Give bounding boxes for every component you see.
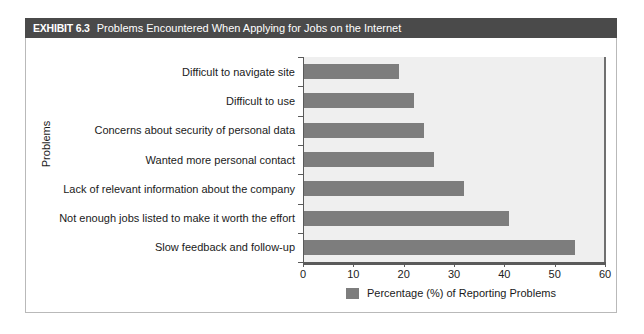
bar[interactable] [303, 123, 424, 138]
x-axis-tick-mark [404, 262, 405, 267]
plot-area [303, 57, 605, 262]
exhibit-header-bar: EXHIBIT 6.3 Problems Encountered When Ap… [25, 18, 617, 38]
x-axis-tick-mark [353, 262, 354, 267]
y-axis-title: Problems [40, 99, 52, 189]
bar[interactable] [303, 152, 434, 167]
x-axis-tick-mark [454, 262, 455, 267]
bar-row [303, 57, 605, 86]
bar-row [303, 203, 605, 232]
bar[interactable] [303, 93, 414, 108]
bar-row [303, 116, 605, 145]
y-tick-label: Difficult to navigate site [182, 66, 295, 78]
y-axis-line [303, 57, 304, 262]
x-axis-tick-label: 50 [549, 268, 561, 280]
x-axis-tick-mark [504, 262, 505, 267]
y-tick-label: Difficult to use [226, 95, 295, 107]
x-axis-tick-label: 10 [347, 268, 359, 280]
bar-row [303, 174, 605, 203]
x-axis-tick-label: 30 [448, 268, 460, 280]
bars-group [303, 57, 605, 262]
exhibit-figure: EXHIBIT 6.3 Problems Encountered When Ap… [0, 0, 644, 334]
legend: Percentage (%) of Reporting Problems [346, 287, 556, 299]
legend-swatch-icon [346, 288, 359, 299]
bar[interactable] [303, 64, 399, 79]
chart-container: Problems Difficult to navigate site Diff… [25, 38, 617, 313]
legend-label: Percentage (%) of Reporting Problems [367, 287, 556, 299]
y-tick-label: Wanted more personal contact [146, 154, 295, 166]
x-axis-tick-label: 0 [300, 268, 306, 280]
bar[interactable] [303, 181, 464, 196]
y-tick-label: Lack of relevant information about the c… [63, 183, 295, 195]
x-axis-tick-mark [605, 262, 606, 267]
exhibit-title: Problems Encountered When Applying for J… [97, 22, 402, 34]
x-axis-tick-label: 40 [498, 268, 510, 280]
x-axis-tick-mark [303, 262, 304, 267]
plot-right-edge [604, 57, 606, 262]
bar[interactable] [303, 240, 575, 255]
exhibit-number-label: EXHIBIT 6.3 [33, 22, 90, 34]
x-axis-tick-mark [555, 262, 556, 267]
bar-row [303, 233, 605, 262]
y-tick-label: Concerns about security of personal data [94, 124, 295, 136]
bar-row [303, 86, 605, 115]
y-tick-label: Slow feedback and follow-up [155, 241, 295, 253]
bar-row [303, 145, 605, 174]
y-tick-label: Not enough jobs listed to make it worth … [59, 212, 295, 224]
x-axis-tick-label: 60 [599, 268, 611, 280]
bar[interactable] [303, 211, 509, 226]
y-axis-tick-labels: Difficult to navigate site Difficult to … [66, 57, 299, 262]
x-axis-tick-label: 20 [398, 268, 410, 280]
